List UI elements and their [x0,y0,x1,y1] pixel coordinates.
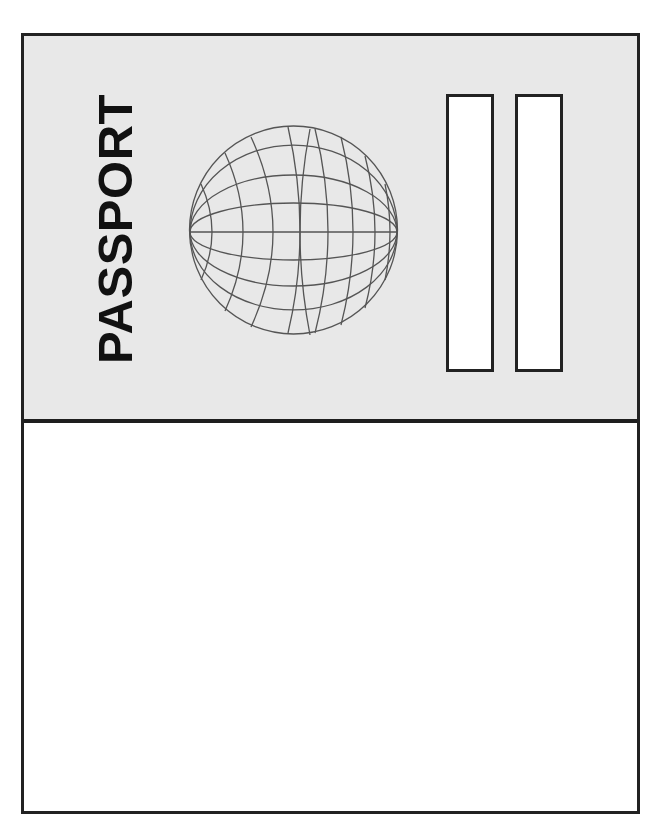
left-blank-field [446,94,494,372]
passport-cover: PASSPORT [24,36,637,423]
passport-booklet: PASSPORT [21,33,640,814]
inner-blank-page [24,423,637,811]
right-blank-field [515,94,563,372]
